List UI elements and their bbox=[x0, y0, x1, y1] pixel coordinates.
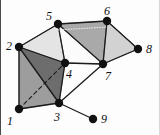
diagram-canvas: 123456789 bbox=[0, 0, 160, 135]
vertex-node-4[interactable] bbox=[61, 59, 69, 67]
vertex-node-9[interactable] bbox=[89, 115, 97, 123]
vertex-node-2[interactable] bbox=[15, 43, 23, 51]
vertex-label-8: 8 bbox=[146, 43, 152, 55]
vertex-label-1: 1 bbox=[7, 115, 13, 127]
edge-3-9 bbox=[59, 103, 93, 119]
faces-layer bbox=[19, 21, 138, 109]
face-6-7-8 bbox=[103, 21, 138, 64]
vertex-label-4: 4 bbox=[66, 68, 72, 80]
vertex-node-1[interactable] bbox=[15, 105, 23, 113]
vertex-label-9: 9 bbox=[101, 113, 107, 125]
vertex-label-6: 6 bbox=[104, 5, 110, 17]
vertex-node-8[interactable] bbox=[134, 45, 142, 53]
vertex-label-7: 7 bbox=[105, 70, 111, 82]
vertex-label-2: 2 bbox=[6, 40, 12, 52]
vertex-node-6[interactable] bbox=[103, 17, 111, 25]
vertex-node-3[interactable] bbox=[55, 99, 63, 107]
simplicial-complex-graphic bbox=[0, 0, 160, 135]
vertex-label-5: 5 bbox=[46, 10, 52, 22]
vertex-node-7[interactable] bbox=[99, 60, 107, 68]
vertex-node-5[interactable] bbox=[54, 20, 62, 28]
vertex-label-3: 3 bbox=[54, 111, 60, 123]
